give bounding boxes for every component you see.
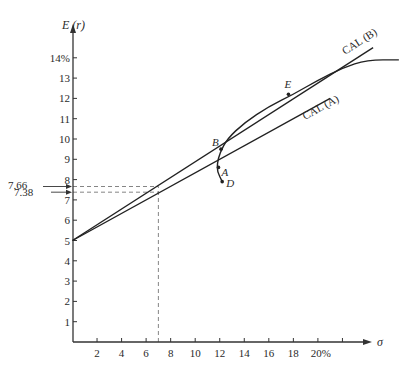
- x-tick-label: 6: [143, 347, 149, 359]
- x-ticks: 2468101214161820%: [94, 338, 342, 359]
- series: CAL (B)CAL (A): [73, 25, 399, 240]
- x-tick-label: 8: [168, 347, 174, 359]
- y-tick-label: 10: [59, 133, 71, 145]
- y-tick-label: 11: [59, 113, 70, 125]
- y-tick-label: 3: [65, 275, 71, 287]
- y-tick-label: 6: [65, 214, 71, 226]
- x-tick-label: 10: [190, 347, 202, 359]
- point-label-e: E: [283, 78, 291, 90]
- annotations: 7.667.38: [8, 179, 72, 199]
- chart: E (r) σ 2468101214161820% 12345678910111…: [0, 0, 420, 382]
- cal-b-label: CAL (B): [340, 25, 380, 57]
- x-tick-label: 4: [119, 347, 125, 359]
- x-tick-label: 14: [239, 347, 251, 359]
- point-label-d: D: [225, 177, 234, 189]
- point-label-b: B: [212, 136, 219, 148]
- x-tick-label: 12: [214, 347, 225, 359]
- cal-b-line: [73, 48, 374, 241]
- y-tick-label: 8: [65, 174, 71, 186]
- annotation-label: 7.38: [14, 186, 34, 198]
- y-tick-label: 9: [65, 153, 71, 165]
- y-tick-label: 14%: [50, 52, 70, 64]
- y-tick-label: 4: [65, 255, 71, 267]
- y-tick-label: 12: [59, 92, 70, 104]
- y-tick-label: 13: [59, 72, 71, 84]
- opportunity-set-curve: [217, 60, 399, 182]
- point-d: [220, 180, 224, 184]
- point-markers: BADE: [212, 78, 291, 188]
- y-axis-title: E (r): [61, 18, 85, 32]
- y-tick-label: 7: [65, 194, 71, 206]
- x-axis-title: σ: [377, 335, 384, 349]
- y-tick-label: 5: [65, 235, 71, 247]
- axes: E (r) σ: [61, 18, 384, 349]
- x-tick-label: 2: [94, 347, 100, 359]
- x-axis-arrow-icon: [363, 339, 372, 345]
- point-e: [287, 93, 291, 97]
- point-a: [217, 166, 221, 170]
- reference-lines: [73, 187, 158, 342]
- y-tick-label: 1: [65, 316, 71, 328]
- point-b: [219, 147, 223, 151]
- x-tick-label: 18: [288, 347, 300, 359]
- x-tick-label: 16: [263, 347, 275, 359]
- x-tick-label: 20%: [311, 347, 331, 359]
- cal-a-line: [73, 98, 331, 240]
- y-tick-label: 2: [65, 295, 71, 307]
- cal-a-label: CAL (A): [300, 92, 341, 123]
